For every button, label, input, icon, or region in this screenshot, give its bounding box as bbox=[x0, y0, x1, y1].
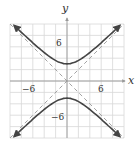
x-axis-label: x bbox=[128, 74, 134, 87]
hyperbola-plot bbox=[0, 0, 140, 148]
y-tick-6: 6 bbox=[56, 38, 62, 48]
y-tick-neg6: −6 bbox=[51, 112, 64, 122]
y-axis-label: y bbox=[62, 2, 68, 15]
x-tick-6: 6 bbox=[98, 84, 104, 94]
x-tick-neg6: −6 bbox=[22, 84, 35, 94]
